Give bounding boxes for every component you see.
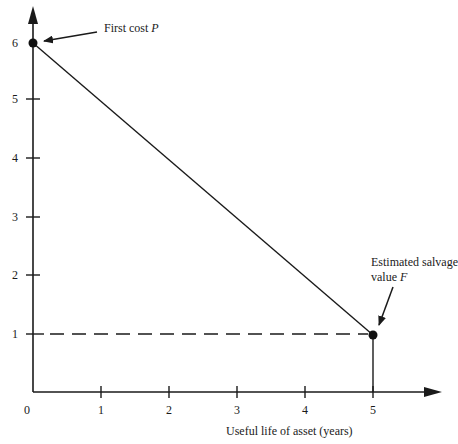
first-cost-variable: P	[151, 21, 158, 35]
first-cost-annotation: First cost P	[104, 21, 159, 35]
salvage-arrow-icon	[379, 287, 393, 325]
x-tick-label: 0	[24, 403, 30, 417]
book-value-line	[33, 43, 373, 335]
x-axis-arrowhead-icon	[424, 387, 442, 397]
x-tick-label: 3	[234, 403, 240, 417]
x-tick-label: 4	[302, 403, 308, 417]
x-tick-label: 1	[98, 403, 104, 417]
x-tick-label: 2	[166, 403, 172, 417]
y-tick-label: 4	[4, 151, 18, 165]
y-tick-label: 1	[4, 327, 18, 341]
salvage-text: value	[371, 270, 400, 284]
y-tick-label: 5	[4, 92, 18, 106]
y-tick-label: 2	[4, 268, 18, 282]
y-tick-label: 6	[4, 36, 18, 50]
salvage-point	[369, 331, 378, 340]
first-cost-text: First cost	[104, 21, 151, 35]
x-tick-label: 5	[370, 403, 376, 417]
y-axis-arrowhead-icon	[28, 6, 38, 24]
x-axis-title: Useful life of asset (years)	[226, 424, 353, 438]
y-tick-label: 3	[4, 210, 18, 224]
salvage-annotation-line2: value F	[371, 270, 407, 284]
y-ticks	[26, 99, 44, 334]
first-cost-arrow-icon	[44, 32, 97, 41]
salvage-annotation-line1: Estimated salvage	[371, 255, 458, 269]
salvage-variable: F	[400, 270, 407, 284]
first-cost-point	[29, 39, 38, 48]
